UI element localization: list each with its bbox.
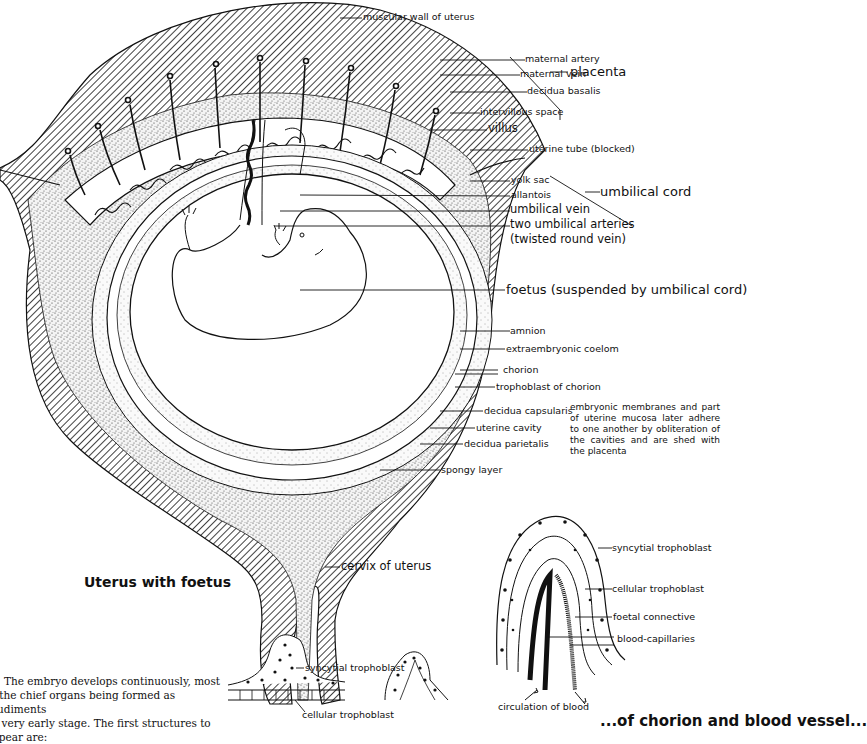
label-umbilical-vein: umbilical vein: [510, 204, 590, 216]
label-extraembryonic-coelom: extraembryonic coelom: [506, 344, 619, 354]
label-spongy-layer: spongy layer: [441, 465, 502, 475]
label-amnion: amnion: [510, 326, 546, 336]
label-decidua-parietalis: decidua parietalis: [464, 439, 549, 449]
body-line-3: a very early stage. The first structures…: [0, 716, 232, 730]
body-line-4: ppear are:: [0, 730, 232, 744]
label-muscular-wall: muscular wall of uterus: [363, 12, 474, 22]
figure-title: Uterus with foetus: [84, 574, 231, 590]
label-foetus: foetus (suspended by umbilical cord): [506, 283, 747, 296]
label-placenta: placenta: [570, 65, 626, 78]
body-line-1: The embryo develops continuously, most: [0, 674, 232, 688]
label-maternal-artery: maternal artery: [525, 54, 600, 64]
label-foetal-connective: foetal connective: [613, 612, 695, 622]
bottom-caption: ...of chorion and blood vessel...: [600, 712, 867, 730]
body-paragraph: The embryo develops continuously, most f…: [0, 674, 232, 744]
label-trophoblast-of-chorion: trophoblast of chorion: [496, 382, 601, 392]
label-villus: villus: [488, 123, 518, 135]
label-syncytial-trophoblast: syncytial trophoblast: [612, 543, 712, 553]
label-circulation: circulation of blood: [498, 702, 589, 712]
label-decidua-basalis: decidua basalis: [527, 86, 600, 96]
label-umbilical-arteries: two umbilical arteries: [510, 219, 635, 231]
label-chorion: chorion: [503, 365, 538, 375]
label-yolk-sac: yolk sac: [511, 175, 550, 185]
label-cellular-trophoblast: cellular trophoblast: [612, 584, 704, 594]
label-decidua-capsularis: decidua capsularis: [484, 406, 573, 416]
label-intervillous-space: intervillous space: [480, 107, 563, 117]
large-villus: [497, 517, 625, 704]
small-villus-2: [385, 652, 448, 700]
label-umbilical-arteries-note: (twisted round vein): [510, 234, 626, 246]
membranes-note: embryonic membranes and part of uterine …: [570, 402, 720, 457]
label-blood-capillaries: blood-capillaries: [617, 634, 695, 644]
body-line-2: f the chief organs being formed as rudim…: [0, 688, 232, 716]
label-allantois: allantois: [511, 190, 551, 200]
label-uterine-cavity: uterine cavity: [476, 423, 542, 433]
label-cervix: cervix of uterus: [341, 561, 431, 573]
label-umbilical-cord: umbilical cord: [600, 185, 691, 198]
label-small-syncytial: syncytial trophoblast: [305, 663, 405, 673]
label-uterine-tube: uterine tube (blocked): [529, 144, 635, 154]
label-small-cellular: cellular trophoblast: [302, 710, 394, 720]
